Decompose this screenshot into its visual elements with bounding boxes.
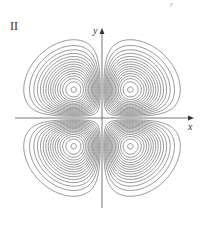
x-axis-arrow-icon — [188, 116, 194, 121]
panel-label: II — [10, 19, 18, 33]
y-axis-arrow-icon — [100, 28, 105, 34]
x-axis-label: x — [187, 121, 193, 132]
y-axis-label: y — [92, 25, 98, 36]
corner-mark: y — [169, 0, 174, 8]
orbital-contour-figure: II y x y — [0, 0, 206, 225]
